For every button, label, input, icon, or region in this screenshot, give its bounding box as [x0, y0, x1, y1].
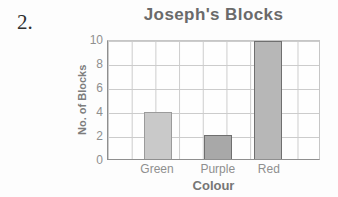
x-axis-ticks: GreenPurpleRed: [107, 162, 320, 176]
x-tick-green: Green: [140, 162, 173, 176]
y-tick-6: 6: [96, 82, 103, 94]
chart-title: Joseph's Blocks: [107, 5, 320, 25]
x-tick-purple: Purple: [200, 162, 235, 176]
y-tick-0: 0: [96, 154, 103, 166]
bar-green: [144, 112, 172, 159]
y-tick-8: 8: [96, 58, 103, 70]
question-number: 2.: [17, 10, 33, 35]
y-tick-4: 4: [96, 106, 103, 118]
y-tick-2: 2: [96, 130, 103, 142]
x-tick-red: Red: [258, 162, 280, 176]
plot-area: [107, 40, 320, 160]
bar-purple: [204, 135, 232, 159]
y-tick-10: 10: [90, 34, 103, 46]
bar-red: [254, 41, 282, 159]
worksheet-page: 2. Joseph's Blocks No. of Blocks 0246810…: [0, 0, 338, 197]
x-axis-label: Colour: [107, 178, 320, 193]
y-axis-ticks: 0246810: [72, 40, 103, 160]
